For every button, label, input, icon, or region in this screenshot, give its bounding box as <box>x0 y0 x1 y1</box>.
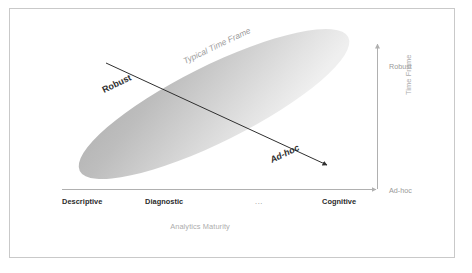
diagram-figure: Robust Ad-hoc Typical Time Frame Descrip… <box>0 0 472 273</box>
typical-time-frame-ellipse <box>63 3 365 205</box>
diagram-canvas: Robust Ad-hoc Typical Time Frame <box>0 0 472 273</box>
y-axis-caption: Time Frame <box>404 54 413 95</box>
y-label-adhoc: Ad-hoc <box>389 186 412 195</box>
arrow-end-label-adhoc: Ad-hoc <box>268 142 301 165</box>
x-axis-caption: Analytics Maturity <box>0 222 400 231</box>
x-tick-ellipsis: ... <box>255 197 263 206</box>
x-tick-diagnostic: Diagnostic <box>145 197 183 206</box>
x-tick-descriptive: Descriptive <box>62 197 102 206</box>
x-tick-cognitive: Cognitive <box>322 197 356 206</box>
arrow-start-label-robust: Robust <box>101 72 133 94</box>
